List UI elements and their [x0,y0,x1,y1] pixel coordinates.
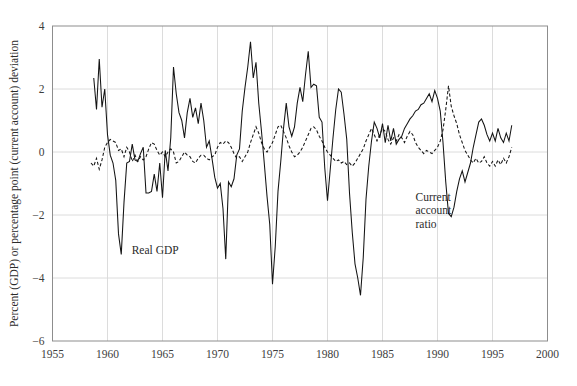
x-tick-label: 1970 [206,348,229,360]
x-tick-label: 2000 [536,348,559,360]
y-tick-label: −4 [32,272,44,284]
annotation-line: account [416,204,453,216]
y-tick-label: 4 [39,20,45,32]
real-gdp-annotation: Real GDP [132,244,179,256]
series-line-dashed [91,86,512,169]
y-tick-label: −2 [32,209,44,221]
x-axis-tick-labels: 1955196019651970197519801985199019952000 [41,348,559,360]
annotation-line: Current [416,191,452,203]
x-tick-label: 1965 [151,348,174,360]
y-axis-title-text: Percent (GDP) or percentage point (curre… [8,40,21,327]
x-tick-label: 1990 [426,348,449,360]
annotation-line: ratio [416,218,437,230]
series-line-solid [94,42,512,296]
annotation-line: Real GDP [132,244,179,256]
y-tick-label: −6 [32,335,44,347]
y-axis-title: Percent (GDP) or percentage point (curre… [8,40,21,327]
y-axis-tick-labels: 420−2−4−6 [32,20,45,347]
y-tick-label: 0 [39,146,45,158]
horizontal-gridlines [53,89,548,278]
plot-frame [53,26,548,341]
chart-container: 1955196019651970197519801985199019952000… [0,0,577,386]
x-tick-label: 1995 [481,348,504,360]
x-tick-label: 1980 [316,348,339,360]
current-account-annotation: Currentaccountratio [416,191,453,230]
x-tick-label: 1975 [261,348,284,360]
x-tick-label: 1960 [96,348,119,360]
x-tick-label: 1955 [41,348,64,360]
chart-plot: 1955196019651970197519801985199019952000… [0,0,577,386]
data-series-layer [91,42,512,296]
vertical-gridlines [108,26,493,341]
x-tick-label: 1985 [371,348,394,360]
y-tick-label: 2 [39,83,45,95]
axes-border [53,26,548,341]
chart-annotations: Real GDPCurrentaccountratio [132,191,452,257]
